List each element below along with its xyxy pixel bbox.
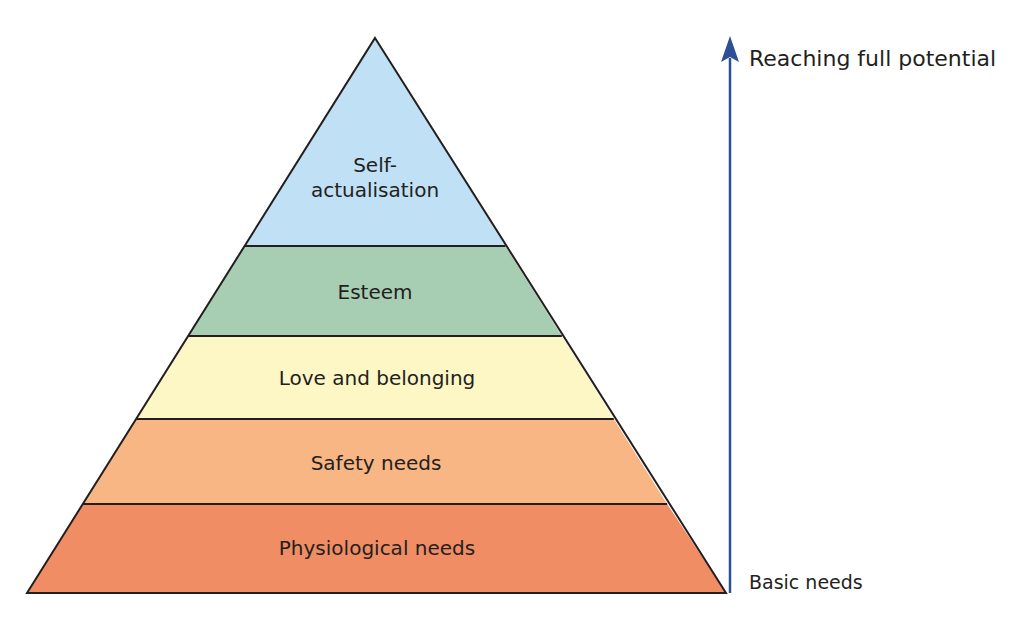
axis-top-label: Reaching full potential (749, 46, 996, 71)
level-label-physiological-needs: Physiological needs (279, 536, 475, 561)
arrow-up-icon (721, 36, 739, 593)
level-label-line: Self- (311, 153, 439, 178)
pyramid-diagram (0, 0, 1010, 618)
level-label-line: actualisation (311, 178, 439, 203)
level-label-esteem: Esteem (338, 280, 413, 305)
level-label-self-actualisation: Self- actualisation (311, 153, 439, 203)
level-self-actualisation (245, 38, 506, 246)
level-label-safety-needs: Safety needs (311, 451, 442, 476)
level-label-love-and-belonging: Love and belonging (279, 366, 476, 391)
axis-bottom-label: Basic needs (749, 571, 863, 593)
